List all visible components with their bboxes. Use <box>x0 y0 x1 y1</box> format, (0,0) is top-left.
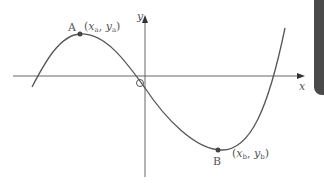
y-axis-label: y <box>136 10 144 23</box>
side-tab <box>314 0 324 95</box>
point-b-coords: (xb, yb) <box>232 147 269 161</box>
point-a-coords: (xa, ya) <box>84 20 120 34</box>
cubic-graph: A (xa, ya) B (xb, yb) y x <box>0 0 324 183</box>
point-a-marker <box>78 32 83 37</box>
x-axis-arrow-icon <box>297 73 305 79</box>
cubic-curve <box>32 28 285 150</box>
point-b-label: B <box>213 155 221 168</box>
point-b-marker <box>216 148 221 153</box>
x-axis-label: x <box>299 80 306 93</box>
point-a-label: A <box>67 21 77 34</box>
